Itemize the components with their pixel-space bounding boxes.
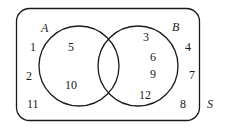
- set-b-circle: [98, 26, 178, 106]
- element-b-only: 6: [150, 50, 156, 64]
- element-b-only: 3: [143, 30, 149, 44]
- element-b-only: 12: [139, 88, 151, 102]
- set-b-label: B: [172, 20, 180, 34]
- element-outside: 2: [26, 69, 32, 83]
- venn-diagram: A B S 1 2 11 5 10 3 6 9 12 4 7 8: [0, 0, 226, 130]
- element-outside: 1: [30, 40, 36, 54]
- universe-label: S: [207, 97, 213, 111]
- set-a-circle: [39, 26, 119, 106]
- element-outside: 11: [27, 97, 39, 111]
- element-outside: 7: [189, 68, 195, 82]
- element-a-only: 10: [65, 78, 77, 92]
- element-outside: 4: [185, 40, 191, 54]
- element-outside: 8: [180, 97, 186, 111]
- element-a-only: 5: [68, 40, 74, 54]
- set-a-label: A: [40, 21, 49, 35]
- venn-svg: A B S 1 2 11 5 10 3 6 9 12 4 7 8: [0, 0, 226, 130]
- element-b-only: 9: [150, 67, 156, 81]
